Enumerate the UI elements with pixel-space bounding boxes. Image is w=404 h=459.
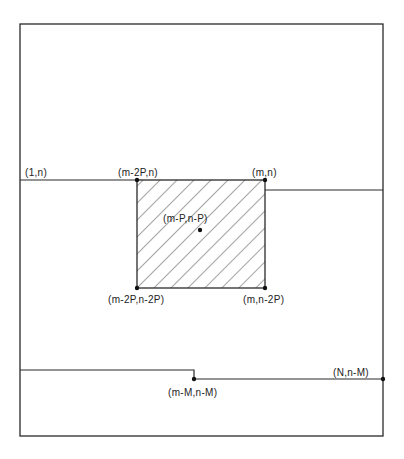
label-lower-right: (N,n-M) xyxy=(333,367,369,378)
point-box-top-left xyxy=(135,178,139,182)
point-box-center xyxy=(198,228,202,232)
point-box-top-right xyxy=(263,178,267,182)
point-lower-right xyxy=(381,377,385,381)
label-lower-step: (m-M,n-M) xyxy=(168,387,217,398)
point-box-bottom-left xyxy=(135,286,139,290)
label-top-left-line: (1,n) xyxy=(25,167,47,178)
label-box-bottom-right: (m,n-2P) xyxy=(243,294,284,305)
label-box-center: (m-P,n-P) xyxy=(163,213,208,224)
point-box-bottom-right xyxy=(263,286,267,290)
label-box-top-right: (m,n) xyxy=(252,167,277,178)
label-box-bottom-left: (m-2P,n-2P) xyxy=(108,294,164,305)
lower-step-line xyxy=(20,370,383,379)
shaded-window-box xyxy=(137,180,265,288)
diagram-canvas: (1,n) (m-2P,n) (m,n) (m-P,n-P) (m-2P,n-2… xyxy=(0,0,404,459)
label-box-top-left: (m-2P,n) xyxy=(118,167,158,178)
point-lower-step xyxy=(192,377,196,381)
